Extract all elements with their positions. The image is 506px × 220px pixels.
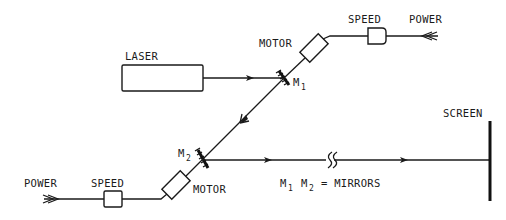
mirror-2-label: M (178, 147, 185, 159)
optical-diagram: LASER M 1 MOTOR SPEED POWER (0, 0, 506, 220)
laser-source: LASER (122, 50, 203, 91)
speed-bottom-box (104, 191, 122, 207)
laser-label: LASER (125, 50, 158, 62)
legend: M 1 M 2 = MIRRORS (280, 177, 381, 193)
legend-mirrors-text: = MIRRORS (321, 177, 381, 189)
power-bottom-label: POWER (24, 177, 57, 189)
laser-beam (203, 75, 284, 81)
legend-m1-sub: 1 (288, 184, 293, 193)
laser-box (122, 65, 203, 91)
legend-m2-sub: 2 (309, 184, 314, 193)
legend-m2: M (301, 177, 308, 189)
speed-bottom-label: SPEED (91, 177, 124, 189)
speed-top-box (368, 28, 386, 44)
motor-top-label: MOTOR (259, 37, 292, 49)
motor-bottom-label: MOTOR (193, 183, 226, 195)
mirror-1-label: M (293, 76, 300, 88)
screen: SCREEN (443, 107, 490, 201)
break-mark-icon (328, 152, 332, 168)
mirror-2-subscript: 2 (186, 154, 191, 163)
power-input-bottom: POWER (24, 177, 58, 203)
mirror-2: M 2 (178, 147, 208, 168)
beam-to-screen (203, 152, 490, 168)
motor-bottom: MOTOR (122, 159, 226, 199)
beam-m1-m2 (203, 78, 284, 159)
mirror-1-subscript: 1 (301, 83, 306, 92)
legend-m1: M (280, 177, 287, 189)
screen-label: SCREEN (443, 107, 483, 119)
speed-top-label: SPEED (348, 13, 381, 25)
power-top-label: POWER (409, 13, 442, 25)
motor-top: MOTOR (259, 34, 368, 78)
